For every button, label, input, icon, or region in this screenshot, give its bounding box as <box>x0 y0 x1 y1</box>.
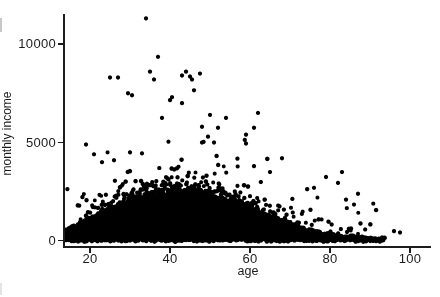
y-axis-title: monthly income <box>1 79 14 189</box>
x-axis-title: age <box>228 264 268 278</box>
x-tick-label-20: 20 <box>70 252 110 266</box>
y-axis-line <box>63 14 65 247</box>
x-tick-label-80: 80 <box>310 252 350 266</box>
x-tick-label-40: 40 <box>150 252 190 266</box>
y-axis-tick-0 <box>58 240 64 242</box>
y-tick-label-10000: 10000 <box>0 36 56 52</box>
scan-artifact-mark <box>0 18 2 32</box>
scatter-points-canvas <box>0 0 440 297</box>
y-axis-tick-5000 <box>58 142 64 144</box>
scatter-plot-figure: 10000 5000 0 20 40 60 80 100 age monthly… <box>0 0 440 297</box>
x-axis-line <box>63 246 431 248</box>
y-axis-tick-10000 <box>58 43 64 45</box>
y-tick-label-0: 0 <box>0 233 56 249</box>
x-tick-label-100: 100 <box>390 252 430 266</box>
scan-artifact-mark <box>0 283 2 295</box>
